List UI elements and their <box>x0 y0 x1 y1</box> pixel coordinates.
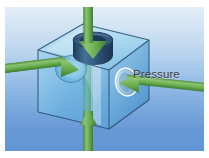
pressure-cube-figure: Pressure <box>0 0 209 158</box>
illustration-plate: Pressure <box>5 7 204 151</box>
arrow-left-shaft <box>5 57 63 73</box>
arrow-bottom-head <box>80 110 97 125</box>
arrow-top-shaft-front <box>84 7 94 43</box>
pressure-label: Pressure <box>133 68 180 81</box>
arrow-top-head <box>79 41 108 59</box>
arrow-left-head <box>61 55 79 77</box>
